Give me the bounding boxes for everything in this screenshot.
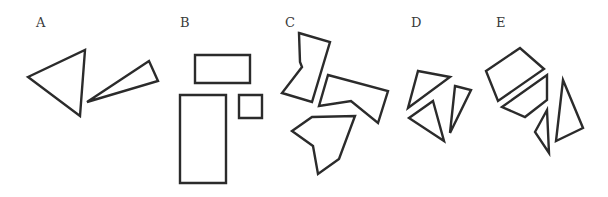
shape-puzzle-diagram: A B C D E — [0, 0, 608, 197]
hexagon-shape — [292, 116, 355, 174]
option-label-d: D — [411, 15, 421, 30]
option-label-e: E — [496, 15, 506, 30]
group-e: E — [486, 15, 583, 153]
triangle-shape — [556, 80, 583, 141]
group-c: C — [282, 15, 388, 174]
square-shape — [239, 95, 262, 118]
triangle-shape — [450, 86, 471, 133]
triangle-shape — [87, 61, 158, 102]
option-label-c: C — [285, 15, 295, 30]
group-a: A — [28, 15, 158, 116]
rectangle-shape — [180, 95, 226, 183]
group-b: B — [180, 15, 262, 183]
option-label-b: B — [180, 15, 190, 30]
quadrilateral-shape — [486, 48, 544, 101]
triangle-shape — [535, 110, 549, 153]
rectangle-shape — [195, 55, 250, 83]
option-label-a: A — [35, 15, 46, 30]
triangle-shape — [409, 101, 444, 141]
triangle-shape — [28, 50, 85, 116]
group-d: D — [408, 15, 471, 141]
